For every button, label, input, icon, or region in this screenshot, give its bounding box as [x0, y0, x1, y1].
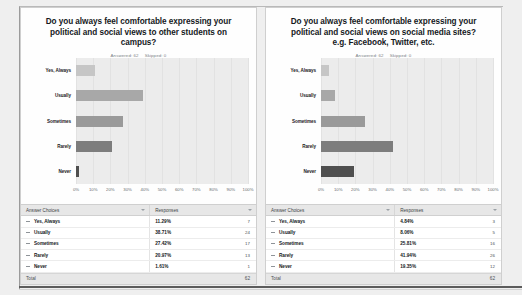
column-header-answer-choices[interactable]: Answer Choices	[21, 205, 150, 215]
answer-choice-label: Never	[34, 264, 47, 269]
response-count: 12	[490, 264, 495, 269]
x-tick-1: 10%	[334, 187, 343, 192]
minus-icon[interactable]	[26, 266, 30, 267]
column-header-answer-choices-label: Answer Choices	[26, 208, 59, 213]
answer-choice-label: Sometimes	[279, 241, 304, 246]
x-tick-4: 40%	[140, 187, 149, 192]
cell-answer-choice[interactable]: Never	[266, 261, 395, 271]
x-tick-3: 30%	[123, 187, 132, 192]
x-tick-5: 50%	[403, 187, 412, 192]
answer-choice-label: Rarely	[34, 253, 48, 258]
sort-caret-icon[interactable]	[141, 209, 145, 211]
bottom-divider	[19, 286, 522, 288]
answer-choice-label: Never	[279, 264, 292, 269]
column-header-responses[interactable]: Responses	[150, 205, 256, 215]
table-header-row: Answer ChoicesResponses	[266, 205, 501, 216]
x-tick-0: 0%	[73, 187, 79, 192]
category-label-3: Rarely	[29, 134, 74, 159]
bar-row-0	[321, 58, 493, 83]
category-label-0: Yes, Always	[29, 58, 74, 83]
minus-icon[interactable]	[26, 255, 30, 256]
minus-icon[interactable]	[271, 221, 275, 222]
cell-answer-choice[interactable]: Yes, Always	[266, 216, 395, 226]
cell-answer-choice[interactable]: Usually	[21, 228, 150, 238]
cell-response-percent: 38.71%	[150, 228, 223, 238]
cell-response-percent: 1.61%	[150, 261, 223, 271]
bar-4	[76, 166, 79, 177]
bar-0	[76, 65, 95, 76]
minus-icon[interactable]	[271, 243, 275, 244]
table-row: Sometimes27.42%17	[21, 239, 256, 250]
cell-answer-choice[interactable]: Yes, Always	[21, 216, 150, 226]
cell-response-percent: 20.97%	[150, 250, 223, 260]
cell-answer-choice[interactable]: Usually	[266, 228, 395, 238]
answer-choice-label: Rarely	[279, 253, 293, 258]
cell-answer-choice[interactable]: Never	[21, 261, 150, 271]
plot-area	[76, 58, 248, 184]
bar-chart: Yes, AlwaysUsuallySometimesRarelyNever0%…	[274, 56, 495, 200]
bar-3	[76, 141, 112, 152]
column-header-responses[interactable]: Responses	[395, 205, 501, 215]
bar-chart: Yes, AlwaysUsuallySometimesRarelyNever0%…	[29, 56, 250, 200]
cell-answer-choice[interactable]: Rarely	[21, 250, 150, 260]
x-tick-0: 0%	[318, 187, 324, 192]
column-header-responses-label: Responses	[400, 208, 423, 213]
cell-answer-choice[interactable]: Sometimes	[21, 239, 150, 249]
cell-answer-choice[interactable]: Sometimes	[266, 239, 395, 249]
cell-response-percent: 19.35%	[395, 261, 468, 271]
cell-answer-choice[interactable]: Rarely	[266, 250, 395, 260]
response-count: 1	[248, 264, 250, 269]
x-tick-8: 80%	[209, 187, 218, 192]
bar-2	[76, 116, 123, 127]
response-percent: 41.94%	[400, 253, 416, 258]
cell-response-count: 26	[468, 250, 501, 260]
cell-response-percent: 11.29%	[150, 216, 223, 226]
cell-response-count: 5	[468, 228, 501, 238]
response-percent: 11.29%	[155, 219, 171, 224]
minus-icon[interactable]	[271, 266, 275, 267]
category-label-2: Sometimes	[274, 108, 319, 133]
response-percent: 4.84%	[400, 219, 413, 224]
response-percent: 19.35%	[400, 264, 416, 269]
minus-icon[interactable]	[26, 221, 30, 222]
answer-choice-label: Yes, Always	[34, 219, 60, 224]
sort-caret-icon[interactable]	[248, 209, 252, 211]
response-count: 13	[245, 253, 250, 258]
x-tick-7: 70%	[192, 187, 201, 192]
table-row: Yes, Always11.29%7	[21, 216, 256, 227]
table-row: Rarely41.94%26	[266, 250, 501, 261]
response-percent: 25.81%	[400, 241, 416, 246]
response-count: 17	[245, 241, 250, 246]
minus-icon[interactable]	[26, 243, 30, 244]
bar-row-1	[76, 83, 248, 108]
total-value: 62	[219, 276, 256, 281]
category-label-1: Usually	[274, 83, 319, 108]
bar-1	[321, 90, 335, 101]
response-percent: 20.97%	[155, 253, 171, 258]
response-count: 26	[490, 253, 495, 258]
table-row: Sometimes25.81%16	[266, 239, 501, 250]
minus-icon[interactable]	[26, 232, 30, 233]
bar-row-3	[76, 134, 248, 159]
x-tick-2: 20%	[351, 187, 360, 192]
column-header-answer-choices[interactable]: Answer Choices	[266, 205, 395, 215]
cell-response-count: 3	[468, 216, 501, 226]
response-percent: 1.61%	[155, 264, 168, 269]
cell-response-count: 16	[468, 239, 501, 249]
response-count: 16	[490, 241, 495, 246]
x-tick-10: 100%	[488, 187, 499, 192]
minus-icon[interactable]	[271, 232, 275, 233]
table-total-row: Total62	[21, 273, 256, 284]
cell-response-percent: 27.42%	[150, 239, 223, 249]
bar-row-0	[76, 58, 248, 83]
sort-caret-icon[interactable]	[386, 209, 390, 211]
bar-rows	[76, 58, 248, 184]
sort-caret-icon[interactable]	[493, 209, 497, 211]
minus-icon[interactable]	[271, 255, 275, 256]
total-label: Total	[21, 276, 219, 281]
question-title: Do you always feel comfortable expressin…	[266, 8, 501, 49]
x-tick-7: 70%	[437, 187, 446, 192]
table-row: Never19.35%12	[266, 261, 501, 272]
bar-row-3	[321, 134, 493, 159]
survey-results-page: Do you always feel comfortable expressin…	[0, 0, 522, 295]
